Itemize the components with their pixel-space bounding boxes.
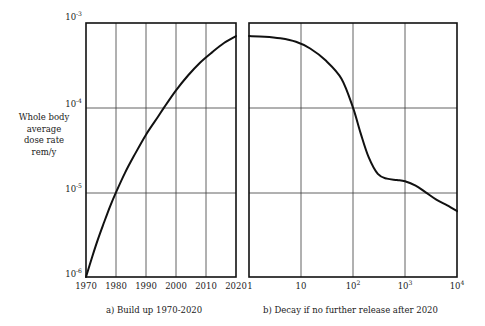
- buildup-curve: [86, 36, 236, 277]
- figure-container: Whole body average dose rate rem/y 10-3 …: [0, 0, 485, 326]
- plot-area: [0, 0, 485, 326]
- panel-a-gridlines: [86, 23, 236, 277]
- panel-b-gridlines: [249, 23, 457, 277]
- panel-a-frame: [86, 23, 236, 277]
